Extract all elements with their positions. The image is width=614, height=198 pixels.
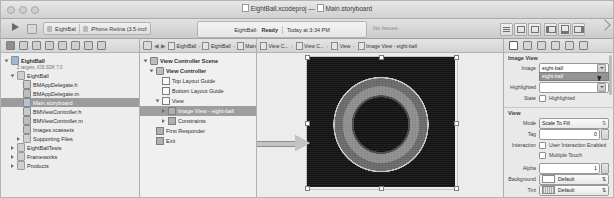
- navigator-item[interactable]: BMAppDelegate.h: [1, 80, 139, 89]
- alpha-stepper[interactable]: [601, 163, 609, 174]
- version-editor-button[interactable]: [528, 23, 541, 36]
- chevron-down-icon[interactable]: [597, 83, 606, 92]
- navigator-item[interactable]: BMViewController.m: [1, 116, 139, 125]
- alpha-input[interactable]: 1: [539, 163, 600, 174]
- outline-item[interactable]: Top Layout Guide: [140, 76, 256, 86]
- disclosure-triangle-icon[interactable]: [16, 137, 21, 141]
- navigator-item[interactable]: BMAppDelegate.m: [1, 89, 139, 98]
- disclosure-triangle-icon[interactable]: [10, 164, 15, 168]
- disclosure-triangle-icon[interactable]: [143, 59, 148, 63]
- navigator-item[interactable]: Images.xcassets: [1, 125, 139, 134]
- project-navigator-icon[interactable]: [6, 41, 15, 50]
- breakpoint-navigator-icon[interactable]: [84, 41, 93, 50]
- issue-navigator-icon[interactable]: [45, 41, 54, 50]
- navigator-item[interactable]: Supporting Files: [1, 134, 139, 143]
- navigator-item[interactable]: EightBallTests: [1, 143, 139, 152]
- fullscreen-icon[interactable]: [599, 19, 610, 30]
- debug-navigator-icon[interactable]: [71, 41, 80, 50]
- quick-help-inspector-icon[interactable]: [523, 41, 532, 50]
- checkbox-box[interactable]: [539, 152, 546, 159]
- disclosure-triangle-icon[interactable]: [10, 155, 15, 159]
- outline-item[interactable]: Image View - eight-ball: [140, 106, 256, 116]
- disclosure-triangle-icon[interactable]: [10, 146, 15, 150]
- navigator-item-label: Supporting Files: [33, 136, 73, 142]
- background-color-well[interactable]: Default ⇅: [539, 174, 609, 185]
- outline-item[interactable]: Constraints: [140, 116, 256, 126]
- highlighted-combo-box[interactable]: [539, 82, 609, 93]
- inspector-scrollbar[interactable]: [609, 55, 612, 95]
- user-interaction-enabled-checkbox[interactable]: User Interaction Enabled: [539, 142, 609, 149]
- file-inspector-icon[interactable]: [509, 41, 518, 50]
- search-navigator-icon[interactable]: [32, 41, 41, 50]
- breadcrumb-item-label: Main.s...: [245, 43, 256, 49]
- outline-jump-bar[interactable]: ◀ ▶ EightBall›EightBall›Main.s...›Main.s…: [140, 39, 256, 53]
- toggle-debug-area-button[interactable]: [558, 23, 571, 36]
- attributes-inspector-icon[interactable]: [551, 41, 560, 50]
- navigator-item[interactable]: EightBall: [1, 71, 139, 80]
- title-separator: —: [308, 5, 315, 12]
- main-split-view: EightBall2 targets, iOS SDK 7.0EightBall…: [1, 39, 613, 198]
- project-navigator-tree[interactable]: EightBall2 targets, iOS SDK 7.0EightBall…: [1, 53, 139, 198]
- canvas-breadcrumb-0[interactable]: View C...›: [260, 42, 294, 50]
- tint-color-well[interactable]: Default ⇅: [539, 185, 609, 196]
- disclosure-triangle-icon[interactable]: [155, 99, 160, 103]
- navigator-item[interactable]: Frameworks: [1, 152, 139, 161]
- highlighted-checkbox[interactable]: Highlighted: [539, 95, 609, 102]
- connections-inspector-icon[interactable]: [579, 41, 588, 50]
- identity-inspector-icon[interactable]: [537, 41, 546, 50]
- back-arrow-icon[interactable]: ◀: [154, 42, 159, 49]
- multiple-touch-checkbox[interactable]: Multiple Touch: [539, 152, 609, 159]
- checkbox-box[interactable]: [539, 142, 546, 149]
- breadcrumb-separator: ›: [353, 43, 355, 49]
- breadcrumb-0[interactable]: EightBall›: [168, 42, 201, 50]
- device-view[interactable]: [307, 57, 455, 187]
- editor-mode-group: [500, 23, 541, 36]
- run-button[interactable]: [12, 23, 19, 31]
- image-field-row: Image eight-ball eight-ball: [504, 63, 613, 73]
- canvas-breadcrumb-3[interactable]: Image View - eight-ball: [358, 42, 417, 50]
- scheme-selector[interactable]: EightBall iPhone Retina (3.5-inch): [43, 22, 151, 35]
- standard-editor-button[interactable]: [500, 23, 513, 36]
- disclosure-triangle-icon[interactable]: [161, 109, 166, 113]
- breadcrumb-item-label: View C...: [269, 43, 289, 49]
- disclosure-triangle-icon[interactable]: [10, 74, 15, 78]
- toggle-navigator-button[interactable]: [544, 23, 557, 36]
- navigator-item[interactable]: Main.storyboard: [1, 98, 139, 107]
- disclosure-triangle-icon[interactable]: [161, 119, 166, 123]
- breadcrumb-1[interactable]: EightBall›: [202, 42, 235, 50]
- report-navigator-icon[interactable]: [97, 41, 106, 50]
- image-dropdown-item[interactable]: eight-ball: [539, 72, 609, 81]
- mode-select[interactable]: Scale To Fill ⇅: [539, 118, 609, 129]
- disclosure-triangle-icon[interactable]: [4, 59, 9, 63]
- checkbox-box[interactable]: [539, 95, 546, 102]
- storyboard-canvas[interactable]: [257, 53, 503, 198]
- navigator-item-label: EightBallTests: [27, 145, 62, 151]
- outline-item[interactable]: View: [140, 96, 256, 106]
- outline-item[interactable]: Bottom Layout Guide: [140, 86, 256, 96]
- document-outline[interactable]: View Controller SceneView ControllerTop …: [140, 53, 256, 198]
- canvas-jump-bar[interactable]: View C...›View C...›View›Image View - ei…: [257, 39, 503, 53]
- navigator-item-label: Main.storyboard: [33, 100, 72, 106]
- outline-item[interactable]: View Controller Scene: [140, 56, 256, 66]
- breadcrumb-2[interactable]: Main.s...›: [237, 42, 256, 50]
- outline-item[interactable]: First Responder: [140, 126, 256, 136]
- tag-input[interactable]: 0: [539, 129, 600, 140]
- symbol-navigator-icon[interactable]: [19, 41, 28, 50]
- related-items-icon[interactable]: [143, 41, 152, 50]
- outline-item[interactable]: View Controller: [140, 66, 256, 76]
- assistant-editor-button[interactable]: [514, 23, 527, 36]
- status-time: Today at 3:34 PM: [287, 27, 330, 33]
- disclosure-triangle-icon[interactable]: [149, 69, 154, 73]
- navigator-item[interactable]: EightBall: [1, 56, 139, 65]
- canvas-breadcrumb-1[interactable]: View C...›: [296, 42, 330, 50]
- outline-item[interactable]: Exit: [140, 136, 256, 146]
- test-navigator-icon[interactable]: [58, 41, 67, 50]
- forward-arrow-icon[interactable]: ▶: [161, 42, 166, 49]
- size-inspector-icon[interactable]: [565, 41, 574, 50]
- tag-stepper[interactable]: [601, 129, 609, 140]
- canvas-breadcrumb-2[interactable]: View›: [331, 42, 355, 50]
- stop-button[interactable]: [27, 24, 37, 34]
- navigator-item[interactable]: Products: [1, 161, 139, 170]
- navigator-item[interactable]: BMViewController.h: [1, 107, 139, 116]
- toggle-utilities-button[interactable]: [572, 23, 585, 36]
